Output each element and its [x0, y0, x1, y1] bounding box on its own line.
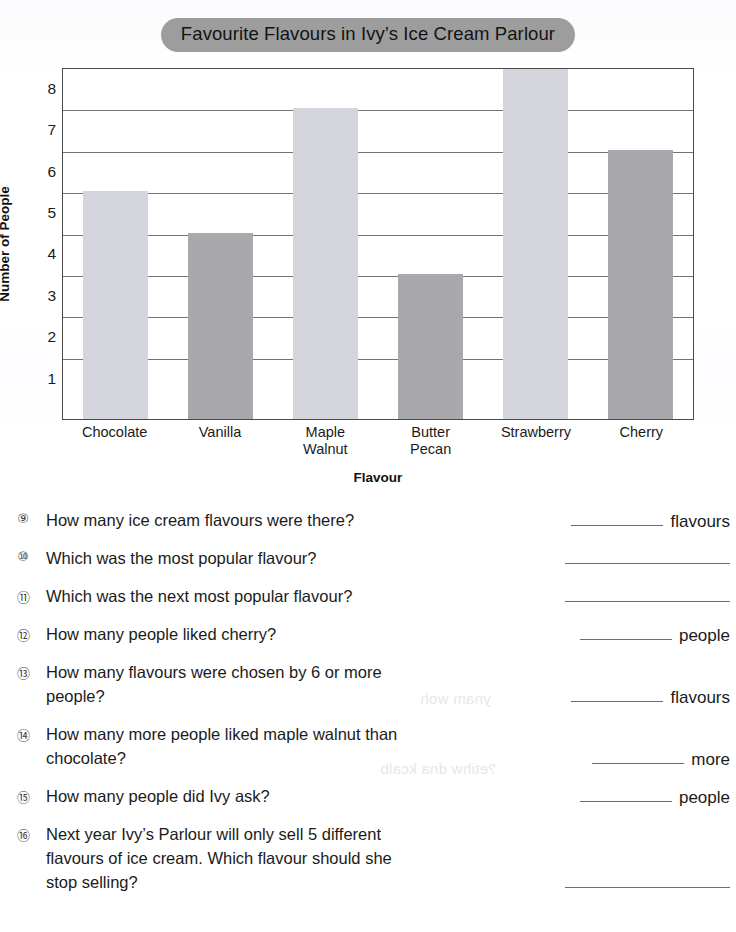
question-row: ⑫How many people liked cherry?people: [0, 622, 736, 646]
answer-unit-label: people: [679, 788, 730, 808]
y-tick-label: 3: [26, 287, 56, 305]
x-tick-label-line: Walnut: [273, 441, 378, 458]
question-text-line: stop selling?: [46, 870, 392, 894]
answer-area[interactable]: [565, 870, 730, 894]
answer-blank-line[interactable]: [571, 525, 663, 526]
bar-butter-pecan: [398, 274, 463, 419]
y-tick-label: 1: [26, 370, 56, 388]
answer-area[interactable]: [565, 546, 730, 570]
y-axis-tick-labels: 12345678: [26, 68, 56, 420]
bar-chart: Number of People 12345678: [62, 68, 694, 420]
question-text-line: How many more people liked maple walnut …: [46, 722, 397, 746]
answer-unit-label: flavours: [670, 688, 730, 708]
question-text: Which was the next most popular flavour?: [46, 584, 352, 608]
bar-slot: [168, 69, 273, 419]
question-text-line: people?: [46, 684, 382, 708]
question-number: ⑨: [0, 508, 46, 526]
bar-slot: [378, 69, 483, 419]
x-tick-label: Chocolate: [62, 424, 167, 458]
answer-blank-line[interactable]: [592, 763, 684, 764]
answer-area[interactable]: [565, 584, 730, 608]
question-number: ⑪: [0, 584, 46, 606]
question-row: ⑬How many flavours were chosen by 6 or m…: [0, 660, 736, 708]
question-row: ⑮How many people did Ivy ask?people: [0, 784, 736, 808]
question-list: ⑨How many ice cream flavours were there?…: [0, 508, 736, 908]
answer-area[interactable]: people: [580, 622, 730, 646]
question-number: ⑩: [0, 546, 46, 564]
question-text: How many flavours were chosen by 6 or mo…: [46, 660, 382, 708]
question-text: Which was the most popular flavour?: [46, 546, 317, 570]
question-row: ⑪Which was the next most popular flavour…: [0, 584, 736, 608]
bar-slot: [63, 69, 168, 419]
question-text: Next year Ivy’s Parlour will only sell 5…: [46, 822, 392, 894]
question-row: ⑩Which was the most popular flavour?: [0, 546, 736, 570]
y-tick-label: 5: [26, 204, 56, 222]
question-number: ⑫: [0, 622, 46, 644]
question-row: ⑯Next year Ivy’s Parlour will only sell …: [0, 822, 736, 894]
answer-area[interactable]: flavours: [571, 508, 730, 532]
bar-cherry: [608, 150, 673, 419]
chart-title: Favourite Flavours in Ivy’s Ice Cream Pa…: [161, 18, 575, 52]
answer-blank-line[interactable]: [580, 639, 672, 640]
x-tick-label-line: Vanilla: [167, 424, 272, 441]
bar-series: [63, 69, 693, 419]
y-tick-label: 8: [26, 80, 56, 98]
question-text-line: Which was the next most popular flavour?: [46, 584, 352, 608]
answer-unit-label: more: [691, 750, 730, 770]
worksheet-page: noitseuq eht rewsnA sruovalf ?ruovalf ra…: [0, 0, 736, 932]
question-text: How many people liked cherry?: [46, 622, 276, 646]
y-tick-label: 7: [26, 121, 56, 139]
bar-slot: [483, 69, 588, 419]
question-number: ⑯: [0, 822, 46, 844]
x-tick-label-line: Chocolate: [62, 424, 167, 441]
x-tick-label: Vanilla: [167, 424, 272, 458]
bar-vanilla: [188, 233, 253, 419]
answer-blank-line[interactable]: [571, 701, 663, 702]
question-text-line: Next year Ivy’s Parlour will only sell 5…: [46, 822, 392, 846]
bar-strawberry: [503, 68, 568, 419]
question-row: ⑭How many more people liked maple walnut…: [0, 722, 736, 770]
plot-area: [62, 68, 694, 420]
x-axis-title: Flavour: [62, 470, 694, 485]
y-tick-label: 4: [26, 245, 56, 263]
question-text: How many more people liked maple walnut …: [46, 722, 397, 770]
y-tick-label: 6: [26, 163, 56, 181]
answer-blank-line[interactable]: [580, 801, 672, 802]
answer-unit-label: flavours: [670, 512, 730, 532]
x-tick-label-line: Pecan: [378, 441, 483, 458]
bar-slot: [588, 69, 693, 419]
question-text-line: Which was the most popular flavour?: [46, 546, 317, 570]
answer-blank-line[interactable]: [565, 601, 730, 602]
x-tick-label: MapleWalnut: [273, 424, 378, 458]
question-number: ⑬: [0, 660, 46, 682]
answer-blank-line[interactable]: [565, 887, 730, 888]
answer-unit-label: people: [679, 626, 730, 646]
bar-slot: [273, 69, 378, 419]
answer-area[interactable]: flavours: [571, 684, 730, 708]
question-text-line: flavours of ice cream. Which flavour sho…: [46, 846, 392, 870]
y-axis-title: Number of People: [0, 186, 12, 302]
bar-chocolate: [83, 191, 148, 419]
chart-title-container: Favourite Flavours in Ivy’s Ice Cream Pa…: [0, 18, 736, 52]
answer-area[interactable]: more: [592, 746, 730, 770]
x-tick-label-line: Strawberry: [483, 424, 588, 441]
x-axis-tick-labels: ChocolateVanillaMapleWalnutButterPecanSt…: [62, 424, 694, 458]
answer-area[interactable]: people: [580, 784, 730, 808]
question-number: ⑮: [0, 784, 46, 806]
x-tick-label-line: Cherry: [589, 424, 694, 441]
x-tick-label-line: Butter: [378, 424, 483, 441]
bar-maple-walnut: [293, 108, 358, 419]
question-text-line: chocolate?: [46, 746, 397, 770]
x-tick-label: ButterPecan: [378, 424, 483, 458]
y-tick-label: 2: [26, 328, 56, 346]
x-tick-label-line: Maple: [273, 424, 378, 441]
question-text-line: How many ice cream flavours were there?: [46, 508, 354, 532]
x-tick-label: Strawberry: [483, 424, 588, 458]
answer-blank-line[interactable]: [565, 563, 730, 564]
question-text: How many ice cream flavours were there?: [46, 508, 354, 532]
question-row: ⑨How many ice cream flavours were there?…: [0, 508, 736, 532]
question-number: ⑭: [0, 722, 46, 744]
question-text-line: How many people liked cherry?: [46, 622, 276, 646]
question-text-line: How many people did Ivy ask?: [46, 784, 270, 808]
question-text-line: How many flavours were chosen by 6 or mo…: [46, 660, 382, 684]
